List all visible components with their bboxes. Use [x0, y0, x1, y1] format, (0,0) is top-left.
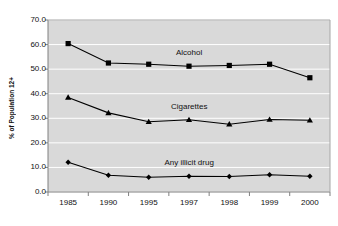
- data-marker-square: [106, 60, 111, 65]
- y-tick-label: 50.0: [16, 65, 46, 73]
- y-tick-label: 30.0: [16, 114, 46, 122]
- x-tick-label: 1995: [129, 198, 169, 208]
- data-marker-square: [227, 63, 232, 68]
- x-tick-label: 1990: [88, 198, 128, 208]
- y-tick-label: 60.0: [16, 41, 46, 49]
- y-tick-label: 0.0: [16, 188, 46, 196]
- chart-title-truncated: [0, 0, 338, 1]
- y-axis-tick-labels: 70.060.050.040.030.020.010.00.0: [14, 0, 46, 226]
- series-label-alcohol: Alcohol: [176, 48, 202, 58]
- y-tick-label: 10.0: [16, 163, 46, 171]
- x-tick-label: 1998: [209, 198, 249, 208]
- data-marker-square: [267, 62, 272, 67]
- data-marker-square: [66, 41, 71, 46]
- y-tick-label: 20.0: [16, 139, 46, 147]
- x-tick-label: 1997: [169, 198, 209, 208]
- series-label-any-illicit-drug: Any illicit drug: [165, 158, 214, 168]
- x-tick-label: 1985: [48, 198, 88, 208]
- x-tick-label: 2000: [290, 198, 330, 208]
- data-marker-square: [186, 64, 191, 69]
- chart-container: % of Population 12+ 70.060.050.040.030.0…: [0, 0, 338, 226]
- data-marker-square: [307, 75, 312, 80]
- y-tick-label: 70.0: [16, 16, 46, 24]
- y-tick-label: 40.0: [16, 90, 46, 98]
- series-label-cigarettes: Cigarettes: [171, 102, 207, 112]
- data-marker-square: [146, 62, 151, 67]
- x-tick-label: 1999: [250, 198, 290, 208]
- plot-area: [0, 0, 338, 226]
